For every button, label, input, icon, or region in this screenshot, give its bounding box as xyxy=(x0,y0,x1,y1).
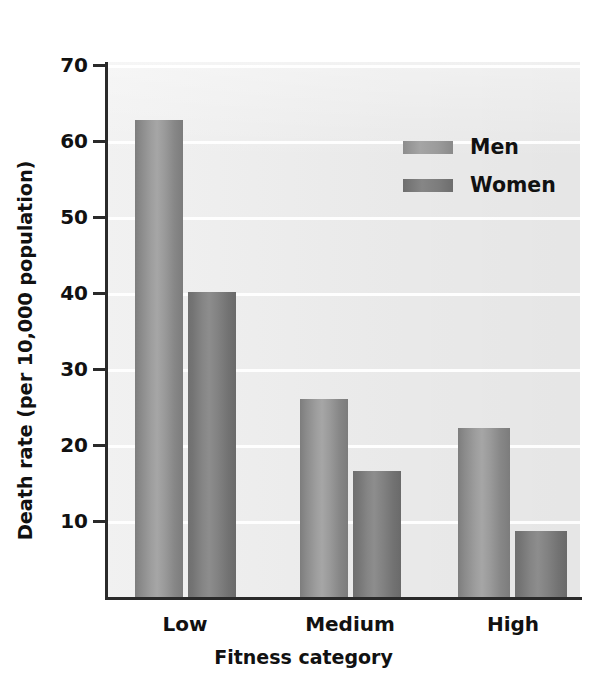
bar-men-low xyxy=(135,120,183,597)
legend-item-men: Men xyxy=(403,128,556,166)
women-swatch-icon xyxy=(403,179,453,192)
y-tick-60 xyxy=(93,140,107,143)
y-tick-label-70: 70 xyxy=(12,55,88,75)
y-tick-50 xyxy=(93,216,107,219)
y-axis-title: Death rate (per 10,000 population) xyxy=(14,131,37,571)
bar-men-medium xyxy=(300,399,348,597)
y-tick-label-10: 10 xyxy=(12,511,88,531)
x-axis-title: Fitness category xyxy=(0,646,607,668)
legend: Men Women xyxy=(403,128,556,204)
y-tick-30 xyxy=(93,368,107,371)
x-axis-line xyxy=(105,597,582,600)
y-tick-40 xyxy=(93,292,107,295)
y-tick-label-30: 30 xyxy=(12,359,88,379)
x-category-label-low: Low xyxy=(163,612,208,636)
y-tick-label-50: 50 xyxy=(12,207,88,227)
y-tick-70 xyxy=(93,64,107,67)
legend-label-men: Men xyxy=(470,137,519,158)
y-tick-label-40: 40 xyxy=(12,283,88,303)
x-category-label-medium: Medium xyxy=(305,612,395,636)
legend-label-women: Women xyxy=(470,175,556,196)
legend-item-women: Women xyxy=(403,166,556,204)
bar-women-low xyxy=(188,292,236,597)
men-swatch-icon xyxy=(403,141,453,154)
gridline-70 xyxy=(107,65,580,68)
bar-chart-figure: Death rate (per 10,000 population) 10203… xyxy=(0,0,607,680)
bar-women-high xyxy=(515,531,567,597)
y-tick-label-20: 20 xyxy=(12,435,88,455)
bar-men-high xyxy=(458,428,510,597)
y-tick-10 xyxy=(93,520,107,523)
y-tick-label-60: 60 xyxy=(12,131,88,151)
y-tick-20 xyxy=(93,444,107,447)
bar-women-medium xyxy=(353,471,401,597)
x-category-label-high: High xyxy=(487,612,539,636)
